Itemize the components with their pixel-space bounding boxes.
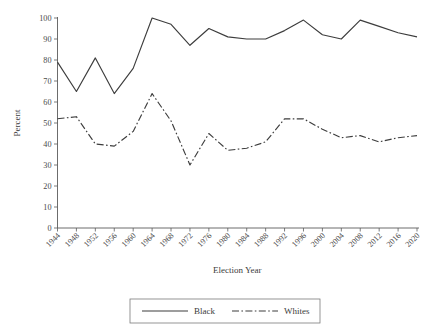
- y-tick-label: 20: [43, 182, 51, 191]
- x-tick-label: 1944: [44, 231, 62, 249]
- x-tick-label: 1968: [158, 231, 176, 249]
- x-tick-label: 1960: [120, 231, 138, 249]
- y-tick-label: 30: [43, 161, 51, 170]
- x-tick-label: 1992: [271, 231, 289, 249]
- y-tick-label: 0: [47, 224, 51, 233]
- y-tick-label: 90: [43, 35, 51, 44]
- series-line-whites: [58, 94, 418, 165]
- series-line-black: [58, 18, 418, 94]
- x-tick-label: 2020: [404, 231, 422, 249]
- x-tick-label: 1956: [101, 231, 119, 249]
- x-tick-label: 1996: [290, 231, 308, 249]
- x-tick-label: 2008: [347, 231, 365, 249]
- x-tick-label: 1952: [82, 231, 100, 249]
- y-tick-label: 70: [43, 77, 51, 86]
- y-tick-label: 50: [43, 119, 51, 128]
- line-chart: 0102030405060708090100Percent19441948195…: [0, 0, 446, 334]
- x-tick-label: 1984: [233, 231, 251, 249]
- y-tick-label: 60: [43, 98, 51, 107]
- x-tick-label: 1976: [196, 231, 214, 249]
- chart-figure: 0102030405060708090100Percent19441948195…: [0, 0, 446, 334]
- x-tick-label: 2012: [366, 231, 384, 249]
- x-tick-label: 1964: [139, 231, 157, 249]
- x-axis-title: Election Year: [213, 265, 262, 275]
- y-tick-label: 40: [43, 140, 51, 149]
- x-tick-label: 1948: [63, 231, 81, 249]
- y-tick-label: 10: [43, 203, 51, 212]
- x-tick-label: 1980: [214, 231, 232, 249]
- y-tick-label: 80: [43, 56, 51, 65]
- x-tick-label: 1972: [177, 231, 195, 249]
- x-tick-label: 2016: [385, 231, 403, 249]
- legend-label-whites: Whites: [284, 306, 310, 316]
- y-tick-label: 100: [39, 14, 51, 23]
- legend-label-black: Black: [194, 306, 215, 316]
- x-tick-label: 2004: [328, 231, 346, 249]
- y-axis-title: Percent: [12, 109, 22, 136]
- x-tick-label: 1988: [252, 231, 270, 249]
- x-tick-label: 2000: [309, 231, 327, 249]
